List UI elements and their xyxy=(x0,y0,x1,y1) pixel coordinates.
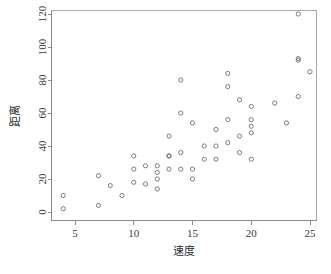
y-tick-label: 60 xyxy=(36,107,48,119)
y-tick-label: 0 xyxy=(36,209,48,215)
data-point xyxy=(143,182,147,186)
scatter-plot-figure: 510152025速度020406080100120距离 xyxy=(0,0,331,274)
x-axis-title: 速度 xyxy=(173,244,195,258)
y-tick-label: 20 xyxy=(36,173,48,185)
x-tick-label: 10 xyxy=(128,227,140,239)
data-point xyxy=(190,121,194,125)
plot-canvas: 510152025速度020406080100120距离 xyxy=(0,0,331,274)
data-point xyxy=(190,177,194,181)
data-point xyxy=(167,154,171,158)
data-point xyxy=(155,164,159,168)
data-point xyxy=(237,98,241,102)
data-point xyxy=(179,78,183,82)
data-point xyxy=(226,85,230,89)
data-point xyxy=(179,111,183,115)
x-tick-label: 15 xyxy=(187,227,199,239)
plot-area-border xyxy=(52,11,317,221)
data-point xyxy=(226,71,230,75)
data-point xyxy=(226,118,230,122)
data-point xyxy=(214,144,218,148)
data-point xyxy=(61,193,65,197)
y-axis-title: 距离 xyxy=(8,105,22,127)
data-point xyxy=(249,157,253,161)
y-tick-label: 120 xyxy=(36,5,48,22)
data-point xyxy=(132,154,136,158)
data-point xyxy=(237,134,241,138)
data-point xyxy=(96,203,100,207)
data-point xyxy=(284,121,288,125)
x-tick-label: 25 xyxy=(305,227,317,239)
data-point xyxy=(132,167,136,171)
y-tick-label: 40 xyxy=(36,140,48,152)
data-point xyxy=(155,177,159,181)
data-point xyxy=(249,131,253,135)
data-point xyxy=(249,104,253,108)
data-point xyxy=(143,164,147,168)
data-point xyxy=(120,193,124,197)
data-point xyxy=(202,157,206,161)
data-point xyxy=(249,118,253,122)
data-point xyxy=(108,184,112,188)
data-point xyxy=(249,124,253,128)
data-point xyxy=(132,180,136,184)
data-point xyxy=(155,187,159,191)
data-point xyxy=(296,94,300,98)
y-tick-label: 80 xyxy=(36,74,48,86)
data-point xyxy=(214,127,218,131)
data-point xyxy=(237,151,241,155)
data-point xyxy=(214,157,218,161)
data-point xyxy=(190,167,194,171)
data-point xyxy=(155,170,159,174)
y-tick-label: 100 xyxy=(36,38,48,55)
data-point xyxy=(308,70,312,74)
x-tick-label: 20 xyxy=(246,227,258,239)
data-point xyxy=(179,151,183,155)
data-point xyxy=(296,12,300,16)
data-point xyxy=(226,141,230,145)
data-point-group xyxy=(61,12,312,211)
data-point xyxy=(96,174,100,178)
data-point xyxy=(179,167,183,171)
data-point xyxy=(273,101,277,105)
x-tick-label: 5 xyxy=(72,227,78,239)
data-point xyxy=(167,167,171,171)
data-point xyxy=(61,207,65,211)
data-point xyxy=(167,134,171,138)
data-point xyxy=(202,144,206,148)
